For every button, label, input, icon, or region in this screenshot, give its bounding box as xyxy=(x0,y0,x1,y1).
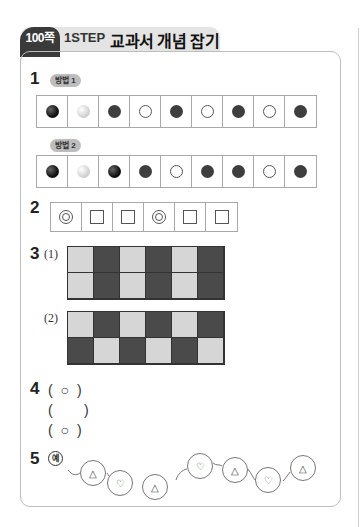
heart-icon: ♡ xyxy=(187,453,213,479)
heart-icon: ♡ xyxy=(107,470,133,496)
triangle-icon: △ xyxy=(290,455,316,481)
triangle-icon: △ xyxy=(142,474,168,500)
triangle-icon: △ xyxy=(222,457,248,483)
chain-connector-lines xyxy=(0,0,362,527)
triangle-icon: △ xyxy=(80,460,106,486)
heart-icon: ♡ xyxy=(255,467,281,493)
